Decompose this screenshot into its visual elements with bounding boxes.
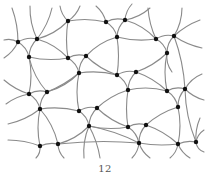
mesh-edge bbox=[97, 108, 128, 127]
mesh-edge bbox=[47, 73, 79, 92]
mesh-edge bbox=[128, 72, 136, 90]
figure-caption: 12 bbox=[0, 163, 210, 174]
network-mesh-diagram bbox=[0, 0, 210, 160]
mesh-node bbox=[16, 40, 20, 44]
mesh-edge bbox=[167, 91, 178, 107]
mesh-edge bbox=[97, 90, 128, 108]
mesh-node bbox=[172, 34, 176, 38]
mesh-edge bbox=[174, 36, 185, 89]
mesh-node bbox=[165, 51, 169, 55]
mesh-edge bbox=[139, 125, 146, 143]
mesh-edges bbox=[4, 4, 204, 158]
mesh-edge bbox=[178, 141, 196, 144]
mesh-node bbox=[115, 73, 119, 77]
mesh-edge bbox=[117, 20, 125, 37]
mesh-node bbox=[66, 56, 70, 60]
mesh-edge bbox=[37, 21, 68, 39]
mesh-edge bbox=[79, 111, 89, 126]
mesh-edge bbox=[29, 94, 40, 109]
mesh-edge bbox=[136, 53, 167, 72]
mesh-edge bbox=[68, 58, 79, 73]
mesh-node bbox=[87, 124, 91, 128]
mesh-edge bbox=[29, 57, 68, 60]
mesh-strand bbox=[12, 8, 18, 42]
mesh-node bbox=[176, 142, 180, 146]
mesh-node bbox=[104, 20, 108, 24]
mesh-strand bbox=[8, 140, 40, 146]
mesh-strand bbox=[174, 8, 182, 36]
mesh-node bbox=[56, 142, 60, 146]
mesh-node bbox=[126, 88, 130, 92]
mesh-node bbox=[38, 107, 42, 111]
mesh-edge bbox=[167, 36, 174, 53]
mesh-edge bbox=[128, 124, 146, 127]
mesh-strand bbox=[68, 6, 80, 21]
mesh-strand bbox=[60, 6, 68, 21]
mesh-node bbox=[38, 144, 42, 148]
mesh-node bbox=[95, 106, 99, 110]
mesh-node bbox=[77, 109, 81, 113]
mesh-node bbox=[27, 55, 31, 59]
mesh-strand bbox=[125, 4, 132, 20]
mesh-node bbox=[154, 37, 158, 41]
mesh-edge bbox=[125, 20, 156, 39]
mesh-node bbox=[165, 89, 169, 93]
mesh-edge bbox=[117, 37, 119, 75]
mesh-node bbox=[126, 125, 130, 129]
mesh-edge bbox=[146, 107, 178, 125]
mesh-edge bbox=[167, 88, 185, 91]
mesh-edge bbox=[178, 89, 185, 107]
mesh-strand bbox=[167, 53, 172, 72]
mesh-edge bbox=[185, 89, 196, 142]
mesh-node bbox=[176, 105, 180, 109]
mesh-strand bbox=[132, 143, 139, 158]
mesh-edge bbox=[40, 143, 58, 146]
mesh-edge bbox=[106, 19, 125, 22]
mesh-edge bbox=[156, 39, 167, 53]
mesh-strand bbox=[178, 144, 190, 158]
mesh-node bbox=[27, 92, 31, 96]
mesh-node bbox=[194, 140, 198, 144]
mesh-strand bbox=[58, 144, 64, 158]
mesh-node bbox=[115, 35, 119, 39]
mesh-strand bbox=[8, 109, 40, 124]
mesh-edge bbox=[58, 141, 139, 144]
mesh-edge bbox=[139, 143, 178, 145]
mesh-node bbox=[77, 71, 81, 75]
mesh-edge bbox=[29, 39, 37, 57]
mesh-node bbox=[183, 87, 187, 91]
mesh-edge bbox=[117, 75, 128, 90]
mesh-strand bbox=[4, 80, 29, 94]
mesh-edge bbox=[146, 125, 178, 144]
mesh-node bbox=[137, 141, 141, 145]
mesh-edge bbox=[67, 21, 69, 58]
mesh-edge bbox=[117, 37, 156, 40]
mesh-edge bbox=[29, 57, 47, 92]
mesh-edge bbox=[40, 108, 79, 111]
mesh-strand bbox=[185, 74, 202, 89]
mesh-strand bbox=[6, 94, 29, 104]
mesh-edge bbox=[68, 55, 86, 58]
mesh-node bbox=[84, 54, 88, 58]
mesh-edge bbox=[127, 90, 129, 127]
mesh-strand bbox=[96, 6, 106, 22]
mesh-edge bbox=[68, 19, 106, 22]
mesh-node bbox=[45, 90, 49, 94]
mesh-edge bbox=[128, 88, 167, 91]
mesh-strand bbox=[174, 36, 202, 48]
mesh-node bbox=[35, 37, 39, 41]
mesh-edge bbox=[40, 92, 47, 109]
mesh-node bbox=[66, 19, 70, 23]
mesh-edge bbox=[77, 73, 79, 111]
mesh-edge bbox=[89, 108, 97, 126]
mesh-edge bbox=[47, 73, 79, 92]
mesh-strand bbox=[4, 42, 18, 58]
mesh-edge bbox=[37, 39, 68, 58]
mesh-strand bbox=[125, 8, 150, 20]
mesh-edge bbox=[178, 107, 180, 144]
mesh-strand bbox=[139, 143, 150, 158]
mesh-edge bbox=[38, 109, 40, 146]
mesh-node bbox=[134, 70, 138, 74]
mesh-strand bbox=[170, 144, 178, 158]
mesh-edge bbox=[18, 42, 29, 57]
